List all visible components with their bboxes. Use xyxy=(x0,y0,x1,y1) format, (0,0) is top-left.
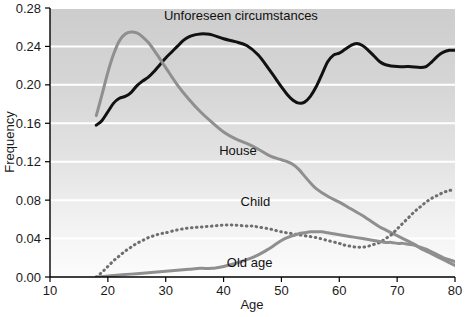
y-tick-label: 0.16 xyxy=(16,116,41,131)
x-tick-label: 80 xyxy=(448,283,462,298)
y-tick-label: 0.12 xyxy=(16,154,41,169)
x-tick-label: 70 xyxy=(390,283,404,298)
x-tick-label: 20 xyxy=(101,283,115,298)
x-axis-title: Age xyxy=(240,297,263,312)
x-tick-label: 40 xyxy=(216,283,230,298)
y-tick-label: 0.08 xyxy=(16,193,41,208)
series-label-unforeseen-circumstances: Unforeseen circumstances xyxy=(164,8,318,23)
y-tick-label: 0.04 xyxy=(16,231,41,246)
x-tick-label: 60 xyxy=(332,283,346,298)
x-axis-ticks: 1020304050607080 xyxy=(43,277,462,298)
chart-container: 1020304050607080 0.000.040.080.120.160.2… xyxy=(0,0,470,317)
y-axis-title: Frequency xyxy=(2,111,17,173)
y-tick-label: 0.00 xyxy=(16,270,41,285)
chart-svg: 1020304050607080 0.000.040.080.120.160.2… xyxy=(0,0,470,317)
series-label-old-age: Old age xyxy=(227,255,273,270)
y-tick-label: 0.28 xyxy=(16,1,41,16)
x-tick-label: 30 xyxy=(158,283,172,298)
y-axis-ticks: 0.000.040.080.120.160.200.240.28 xyxy=(16,1,50,285)
series-label-child: Child xyxy=(241,194,271,209)
x-tick-label: 10 xyxy=(43,283,57,298)
x-tick-label: 50 xyxy=(274,283,288,298)
series-label-house: House xyxy=(219,143,257,158)
y-tick-label: 0.24 xyxy=(16,39,41,54)
y-tick-label: 0.20 xyxy=(16,77,41,92)
